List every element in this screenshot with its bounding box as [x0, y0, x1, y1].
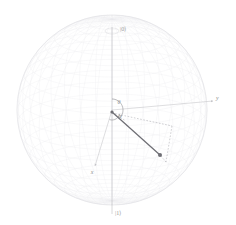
bloch-sphere-figure: |0⟩ |1⟩ y x θ φ [0, 0, 236, 225]
state-vector-tip-marker [158, 153, 162, 157]
axis-y [112, 101, 213, 110]
north-pole-label: |0⟩ [120, 26, 126, 32]
y-axis-label: y [215, 95, 219, 101]
theta-angle-label: θ [118, 99, 121, 105]
phi-angle-label: φ [118, 113, 122, 119]
bloch-sphere-canvas: |0⟩ |1⟩ y x θ φ [0, 0, 236, 225]
south-pole-label: |1⟩ [115, 210, 121, 216]
origin-marker [110, 110, 113, 113]
x-axis-label: x [90, 169, 94, 175]
